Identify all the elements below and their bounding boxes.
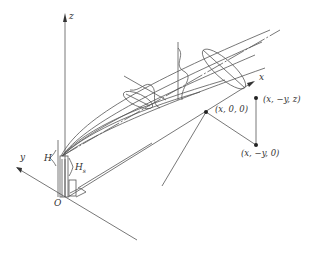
point-x-y0-label: (x, −y, 0)	[241, 149, 279, 158]
point-x-yz-marker	[254, 96, 258, 100]
point-x-yz-label: (x, −y, z)	[263, 95, 301, 104]
z-axis-arrow	[63, 13, 67, 22]
plume-envelope-upper	[61, 30, 270, 156]
stack	[60, 156, 68, 197]
x-axis-arrow	[247, 81, 255, 87]
effective-height-label: H	[44, 154, 52, 163]
y-axis-arrow	[16, 167, 22, 173]
building	[69, 180, 76, 196]
plume-dispersion-diagram: z x y O H Hs (x, 0, 0) (x, −y, z) (x, −y…	[0, 0, 312, 254]
y-axis	[17, 168, 137, 240]
stack-height-label: Hs	[75, 163, 86, 174]
z-axis-label: z	[69, 12, 74, 21]
diagram-canvas	[0, 0, 312, 254]
point-x-y0-marker	[254, 143, 258, 147]
x-axis-label: x	[259, 73, 264, 82]
origin-label: O	[54, 199, 61, 208]
point-x00-marker	[204, 110, 208, 114]
y-axis-label: y	[20, 153, 25, 162]
point-x00-label: (x, 0, 0)	[215, 105, 248, 114]
